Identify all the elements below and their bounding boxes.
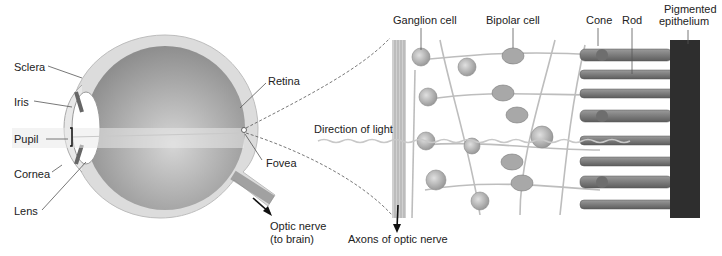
label-cone: Cone [586, 14, 612, 26]
label-direction-of-light: Direction of light [314, 123, 393, 135]
label-ganglion-cell: Ganglion cell [393, 14, 457, 26]
label-lens: Lens [14, 205, 38, 217]
photoreceptors [580, 49, 680, 209]
eye-retina-diagram: Sclera Iris Pupil Cornea Lens Retina Fov… [0, 0, 722, 256]
label-optic-nerve: Optic nerve [270, 220, 326, 232]
fovea-marker [242, 128, 247, 133]
label-epithelium: epithelium [659, 15, 709, 27]
eyeball [12, 35, 275, 218]
bipolar-cells [492, 48, 533, 191]
label-axons: Axons of optic nerve [348, 233, 448, 245]
axons-bundle [392, 40, 406, 233]
pigmented-epithelium [670, 40, 700, 218]
label-retina: Retina [268, 75, 300, 87]
label-bipolar-cell: Bipolar cell [486, 14, 540, 26]
label-cornea: Cornea [14, 168, 50, 180]
label-rod: Rod [622, 14, 642, 26]
label-fovea: Fovea [266, 157, 297, 169]
label-optic-nerve-sub: (to brain) [270, 233, 314, 245]
neural-fibers [412, 40, 600, 218]
label-sclera: Sclera [14, 61, 45, 73]
label-pupil: Pupil [14, 133, 38, 145]
label-iris: Iris [14, 96, 29, 108]
label-pigmented: Pigmented [664, 3, 717, 15]
